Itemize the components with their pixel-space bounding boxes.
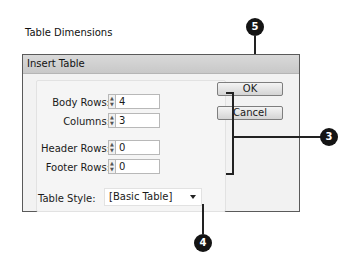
- body-rows-spinner[interactable]: ▲▼: [108, 94, 116, 109]
- callout-3-bracket-vertical: [232, 92, 234, 175]
- callout-3: 3: [320, 128, 338, 146]
- header-rows-input[interactable]: ▲▼ 0: [108, 140, 160, 155]
- columns-spinner[interactable]: ▲▼: [108, 113, 116, 128]
- table-dimensions-label: Table Dimensions: [25, 27, 112, 38]
- spin-down-icon[interactable]: ▼: [109, 166, 115, 172]
- cancel-button[interactable]: Cancel: [217, 106, 283, 120]
- table-style-value: [Basic Table]: [109, 191, 172, 202]
- footer-rows-spinner[interactable]: ▲▼: [108, 159, 116, 174]
- header-rows-label: Header Rows:: [20, 143, 110, 154]
- callout-4-leader: [202, 204, 204, 234]
- callout-3-leader: [232, 136, 322, 138]
- dialog-title: Insert Table: [27, 58, 85, 69]
- columns-label: Columns:: [20, 116, 110, 127]
- spin-down-icon[interactable]: ▼: [109, 147, 115, 153]
- callout-4: 4: [194, 234, 212, 252]
- title-bar: Insert Table: [23, 55, 299, 74]
- body-rows-label: Body Rows:: [20, 97, 110, 108]
- header-rows-spinner[interactable]: ▲▼: [108, 140, 116, 155]
- spin-down-icon[interactable]: ▼: [109, 101, 115, 107]
- body-rows-input[interactable]: ▲▼ 4: [108, 94, 160, 109]
- table-style-label: Table Style:: [38, 193, 96, 204]
- columns-input[interactable]: ▲▼ 3: [108, 113, 160, 128]
- footer-rows-label: Footer Rows:: [20, 162, 110, 173]
- footer-rows-input[interactable]: ▲▼ 0: [108, 159, 160, 174]
- table-style-dropdown[interactable]: [Basic Table]: [104, 188, 202, 206]
- callout-3-bracket-bottom-line: [226, 173, 232, 175]
- chevron-down-icon[interactable]: [190, 195, 196, 199]
- spin-down-icon[interactable]: ▼: [109, 120, 115, 126]
- callout-5: 5: [246, 18, 264, 36]
